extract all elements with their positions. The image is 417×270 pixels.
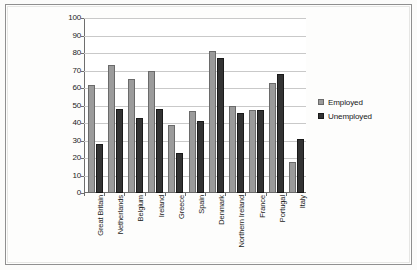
x-axis-category-labels: Great BritainNetherlandsBelgiumIrelandGr… bbox=[84, 195, 306, 265]
bar-unemployed[interactable] bbox=[96, 144, 103, 193]
bar-employed[interactable] bbox=[269, 83, 276, 193]
bar-employed[interactable] bbox=[289, 162, 296, 193]
chart-frame-border: 1009080706050403020100 Great BritainNeth… bbox=[5, 4, 412, 265]
bar-group bbox=[168, 18, 183, 193]
bar-group bbox=[209, 18, 224, 193]
legend-swatch-employed-icon bbox=[318, 99, 324, 105]
y-tick-label-90: 90 bbox=[61, 32, 81, 40]
bar-unemployed[interactable] bbox=[257, 110, 264, 193]
bar-unemployed[interactable] bbox=[156, 109, 163, 193]
y-axis-labels: 1009080706050403020100 bbox=[59, 18, 81, 193]
bar-group bbox=[148, 18, 163, 193]
bar-employed[interactable] bbox=[108, 65, 115, 193]
bar-group bbox=[128, 18, 143, 193]
x-axis-label-france: France bbox=[259, 195, 267, 218]
legend-item-employed[interactable]: Employed bbox=[318, 97, 413, 107]
legend-swatch-unemployed-icon bbox=[318, 113, 324, 119]
y-tick-label-70: 70 bbox=[61, 67, 81, 75]
bar-unemployed[interactable] bbox=[217, 58, 224, 193]
x-axis-label-greece: Greece bbox=[178, 195, 186, 219]
bar-employed[interactable] bbox=[249, 110, 256, 193]
bar-series-container bbox=[84, 18, 306, 193]
y-tick-label-50: 50 bbox=[61, 102, 81, 110]
x-axis-label-portugal: Portugal bbox=[279, 195, 287, 222]
x-axis-label-northern-ireland: Northern Ireland bbox=[238, 195, 246, 248]
bar-unemployed[interactable] bbox=[176, 153, 183, 193]
legend-item-unemployed[interactable]: Unemployed bbox=[318, 111, 413, 121]
x-axis-label-spain: Spain bbox=[198, 195, 206, 214]
x-axis-label-great-britain: Great Britain bbox=[97, 195, 105, 236]
y-tick-label-60: 60 bbox=[61, 84, 81, 92]
bar-employed[interactable] bbox=[88, 85, 95, 194]
y-tick-label-10: 10 bbox=[61, 172, 81, 180]
y-tick-label-0: 0 bbox=[61, 189, 81, 197]
bar-employed[interactable] bbox=[128, 79, 135, 193]
bar-unemployed[interactable] bbox=[297, 139, 304, 193]
bar-group bbox=[269, 18, 284, 193]
y-tick-label-40: 40 bbox=[61, 119, 81, 127]
legend-label: Unemployed bbox=[328, 112, 372, 121]
y-tick-label-30: 30 bbox=[61, 137, 81, 145]
bar-employed[interactable] bbox=[209, 51, 216, 193]
y-tick-label-100: 100 bbox=[61, 14, 81, 22]
chart-screenshot: 1009080706050403020100 Great BritainNeth… bbox=[0, 0, 417, 270]
chart-legend: EmployedUnemployed bbox=[318, 97, 413, 125]
bar-employed[interactable] bbox=[229, 106, 236, 194]
x-axis-label-denmark: Denmark bbox=[218, 195, 226, 225]
bar-employed[interactable] bbox=[168, 125, 175, 193]
x-axis-label-belgium: Belgium bbox=[137, 195, 145, 221]
y-tick-label-20: 20 bbox=[61, 154, 81, 162]
bar-unemployed[interactable] bbox=[197, 121, 204, 193]
x-axis-label-italy: Italy bbox=[299, 195, 307, 208]
plot-area bbox=[84, 18, 306, 193]
y-tick-label-80: 80 bbox=[61, 49, 81, 57]
bar-unemployed[interactable] bbox=[277, 74, 284, 193]
bar-group bbox=[229, 18, 244, 193]
bar-group bbox=[189, 18, 204, 193]
bar-unemployed[interactable] bbox=[136, 118, 143, 193]
x-axis-label-ireland: Ireland bbox=[158, 195, 166, 217]
x-axis-label-netherlands: Netherlands bbox=[117, 195, 125, 234]
legend-label: Employed bbox=[328, 98, 363, 107]
bar-unemployed[interactable] bbox=[116, 109, 123, 193]
bar-unemployed[interactable] bbox=[237, 113, 244, 194]
bar-group bbox=[249, 18, 264, 193]
bar-group bbox=[108, 18, 123, 193]
bar-group bbox=[88, 18, 103, 193]
bar-group bbox=[289, 18, 304, 193]
bar-employed[interactable] bbox=[189, 111, 196, 193]
bar-employed[interactable] bbox=[148, 71, 155, 194]
